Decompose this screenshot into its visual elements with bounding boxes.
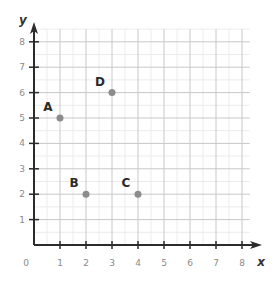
y-tick-label: 8 [19, 37, 25, 47]
point-label-c: C [122, 176, 131, 190]
coordinate-plane: 12345678123456780xy ABCD [0, 0, 278, 281]
x-tick-label: 4 [135, 258, 141, 268]
y-axis-label: y [19, 13, 28, 27]
x-tick-label: 8 [239, 258, 245, 268]
x-tick-label: 6 [187, 258, 193, 268]
x-tick-label: 5 [161, 258, 167, 268]
y-tick-label: 3 [19, 164, 25, 174]
x-tick-label: 2 [83, 258, 89, 268]
point-c [135, 191, 142, 198]
point-b [83, 191, 90, 198]
x-tick-label: 1 [57, 258, 63, 268]
y-tick-label: 2 [19, 189, 25, 199]
y-tick-label: 5 [19, 113, 25, 123]
x-axis-label: x [256, 255, 266, 269]
point-label-d: D [95, 75, 105, 89]
grid-minor [34, 29, 250, 245]
y-tick-label: 6 [19, 88, 25, 98]
origin-label: 0 [23, 258, 29, 268]
grid-major [34, 29, 250, 245]
point-label-b: B [69, 176, 78, 190]
point-label-a: A [43, 100, 53, 114]
y-tick-label: 4 [19, 138, 25, 148]
y-tick-label: 7 [19, 62, 25, 72]
x-tick-label: 3 [109, 258, 115, 268]
x-tick-label: 7 [213, 258, 219, 268]
point-d [109, 89, 116, 96]
axes [30, 22, 262, 249]
y-tick-label: 1 [19, 215, 25, 225]
point-a [57, 115, 64, 122]
